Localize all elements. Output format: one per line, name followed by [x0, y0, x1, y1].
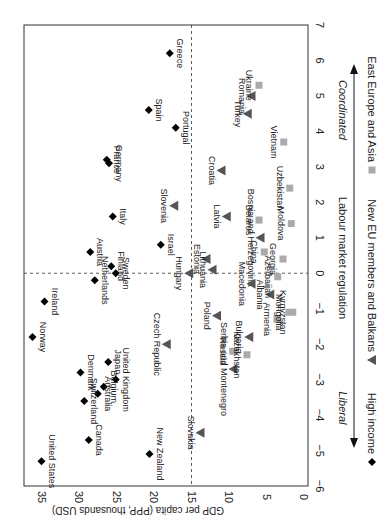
triangle-marker-icon — [212, 311, 221, 321]
x-tick-label: 4 — [314, 128, 326, 134]
diamond-marker-icon — [41, 298, 49, 306]
point-label: Spain — [154, 99, 164, 122]
triangle-marker-icon — [169, 201, 178, 211]
data-point: Germany — [105, 145, 124, 183]
point-label: Lithuania — [198, 251, 208, 288]
triangle-marker-icon — [196, 428, 205, 438]
data-point: Switzerland — [80, 378, 99, 425]
square-marker-icon — [280, 256, 287, 263]
point-label: Armenia — [262, 303, 272, 337]
square-marker-icon — [286, 185, 293, 192]
point-label: Uzbekistan — [275, 166, 285, 211]
square-marker-icon — [244, 351, 251, 358]
legend-label: East Europe and Asia — [366, 56, 378, 163]
point-label: Israel — [166, 234, 176, 256]
y-tick-label: 30 — [73, 491, 85, 503]
diamond-marker-icon — [157, 241, 165, 249]
data-point: Poland — [202, 302, 221, 330]
data-point: Israel — [157, 234, 176, 256]
point-label: New Zealand — [155, 428, 165, 481]
point-label: Netherlands — [100, 256, 110, 305]
x-tick-label: 1 — [314, 235, 326, 241]
y-tick-label: 35 — [36, 491, 48, 503]
data-point: Latvia — [212, 204, 231, 228]
square-marker-icon — [289, 309, 296, 316]
point-label: Poland — [202, 302, 212, 330]
x-tick-label: −5 — [314, 444, 326, 457]
point-label: Russia — [218, 337, 228, 365]
chart-canvas: GreeceSpainPortugalFranceGermanyItalyIsr… — [0, 0, 391, 529]
data-point: Norway — [29, 322, 48, 353]
point-label: Portugal — [181, 111, 191, 145]
data-point: Turkey — [233, 100, 252, 128]
liberal-label: Liberal — [337, 391, 349, 425]
arrow-head-down-icon — [350, 438, 358, 448]
data-point: Canada — [85, 424, 104, 456]
diamond-marker-icon — [109, 212, 117, 220]
data-point: Moldova — [276, 207, 295, 241]
point-label: China — [249, 240, 259, 264]
point-label: Kyrgyzstan — [278, 290, 288, 335]
data-point: Slovakia — [186, 416, 205, 450]
data-point: New Zealand — [146, 428, 165, 481]
point-label: Serbia and Montenegro — [219, 322, 229, 416]
diamond-marker-icon — [86, 248, 94, 256]
data-point: Sweden — [112, 257, 131, 290]
diamond-marker-icon — [172, 124, 180, 132]
diamond-legend-icon — [368, 458, 376, 466]
point-label: Sweden — [121, 257, 131, 290]
diamond-marker-icon — [29, 333, 37, 341]
point-label: Latvia — [212, 204, 222, 228]
point-label: Kazakhstan — [232, 331, 242, 378]
coordinated-label: Coordinated — [337, 80, 349, 141]
square-legend-icon — [369, 167, 376, 174]
diamond-marker-icon — [80, 397, 88, 405]
point-label: Slovenia — [159, 189, 169, 224]
x-tick-label: −3 — [314, 373, 326, 386]
arrow-head-up-icon — [350, 64, 358, 74]
data-point: Ireland — [41, 288, 60, 316]
diamond-marker-icon — [146, 450, 154, 458]
diamond-marker-icon — [91, 276, 99, 284]
x-tick-label: −4 — [314, 409, 326, 422]
diamond-marker-icon — [85, 436, 93, 444]
diamond-marker-icon — [104, 358, 112, 366]
y-tick-label: 25 — [111, 491, 123, 503]
x-tick-label: 3 — [314, 164, 326, 170]
diamond-marker-icon — [38, 457, 46, 465]
x-tick-label: 0 — [314, 270, 326, 276]
point-label: Germany — [114, 145, 124, 183]
point-label: Azerbaijan — [263, 256, 273, 299]
legend-label: High income — [366, 393, 378, 454]
diamond-marker-icon — [145, 106, 153, 114]
data-points: GreeceSpainPortugalFranceGermanyItalyIsr… — [29, 39, 297, 489]
scatter-chart: GreeceSpainPortugalFranceGermanyItalyIsr… — [0, 0, 391, 529]
data-point: Italy — [109, 208, 128, 225]
x-tick-label: −2 — [314, 338, 326, 351]
y-tick-label: 10 — [223, 491, 235, 503]
point-label: Turkey — [233, 100, 243, 128]
square-marker-icon — [256, 217, 263, 224]
data-point: Netherlands — [91, 256, 110, 305]
point-label: Italy — [118, 208, 128, 225]
square-marker-icon — [288, 220, 295, 227]
point-label: Moldova — [276, 207, 286, 241]
point-label: Belarus — [244, 205, 254, 236]
data-point: Czech Republic — [152, 313, 171, 377]
point-label: Greece — [175, 39, 185, 69]
data-point: United States — [38, 434, 57, 489]
square-marker-icon — [274, 273, 281, 280]
data-point: Bosnia and Herzegovina — [246, 189, 265, 287]
point-label: Czech Republic — [152, 313, 162, 377]
data-point: Hungary — [174, 256, 193, 291]
legend-item: New EU members and Balkans — [366, 199, 378, 365]
data-point: Portugal — [172, 111, 191, 145]
data-point: Croatia — [207, 156, 226, 185]
y-tick-label: 15 — [186, 491, 198, 503]
point-label: Vietnam — [269, 126, 279, 159]
x-tick-label: 7 — [314, 22, 326, 28]
legend-item: High income — [366, 393, 378, 466]
data-point: Lithuania — [198, 251, 217, 288]
data-point: Belarus — [244, 205, 263, 236]
y-tick-label: 0 — [298, 494, 310, 500]
